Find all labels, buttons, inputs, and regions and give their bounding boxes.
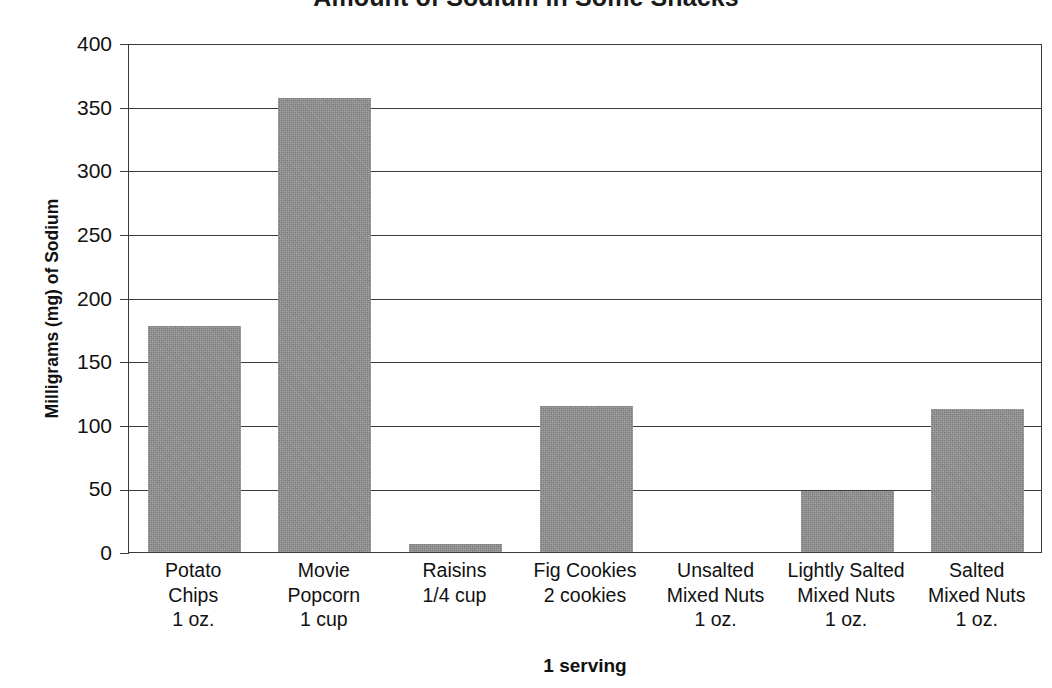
gridline (129, 299, 1041, 300)
x-axis-tick-label: PotatoChips1 oz. (128, 558, 259, 632)
y-axis-tick-mark (120, 490, 129, 491)
bar (540, 406, 633, 552)
x-axis-tick-label-line: Mixed Nuts (781, 583, 912, 608)
y-axis-tick-labels: 050100150200250300350400 (0, 44, 118, 553)
y-axis-tick-mark (120, 108, 129, 109)
bar (148, 326, 241, 553)
x-axis-tick-label-line: Unsalted (650, 558, 781, 583)
x-axis-tick-label-line: Potato (128, 558, 259, 583)
x-axis-tick-label: Raisins1/4 cup (389, 558, 520, 607)
y-axis-tick-mark (120, 553, 129, 554)
x-axis-tick-label-line: Mixed Nuts (911, 583, 1042, 608)
bar (409, 544, 502, 552)
y-axis-tick-label: 300 (77, 159, 112, 183)
x-axis-tick-label: MoviePopcorn1 cup (259, 558, 390, 632)
y-axis-tick-label: 400 (77, 32, 112, 56)
y-axis-tick-label: 100 (77, 414, 112, 438)
x-axis-tick-label: Lightly SaltedMixed Nuts1 oz. (781, 558, 912, 632)
y-axis-tick-label: 50 (89, 477, 112, 501)
y-axis-tick-label: 350 (77, 96, 112, 120)
gridline (129, 235, 1041, 236)
y-axis-tick-label: 200 (77, 287, 112, 311)
x-axis-tick-label-line: Fig Cookies (520, 558, 651, 583)
y-axis-tick-label: 250 (77, 223, 112, 247)
chart-page: Amount of Sodium in Some Snacks Milligra… (0, 0, 1052, 688)
gridline (129, 108, 1041, 109)
x-axis-tick-label-line: Popcorn (259, 583, 390, 608)
x-axis-tick-label-line: 1 cup (259, 607, 390, 632)
y-axis-tick-mark (120, 299, 129, 300)
x-axis-tick-label-line: Salted (911, 558, 1042, 583)
y-axis-tick-mark (120, 44, 129, 45)
bar (931, 409, 1024, 552)
y-axis-tick-label: 0 (100, 541, 112, 565)
x-axis-tick-label: Fig Cookies2 cookies (520, 558, 651, 607)
x-axis-title: 1 serving (128, 655, 1042, 677)
x-axis-tick-labels: PotatoChips1 oz.MoviePopcorn1 cupRaisins… (128, 558, 1042, 636)
x-axis-tick-label-line: Chips (128, 583, 259, 608)
x-axis-tick-label: UnsaltedMixed Nuts1 oz. (650, 558, 781, 632)
x-axis-tick-label-line: 1 oz. (650, 607, 781, 632)
y-axis-tick-mark (120, 426, 129, 427)
x-axis-tick-label-line: Raisins (389, 558, 520, 583)
plot-area (128, 44, 1042, 553)
chart-title: Amount of Sodium in Some Snacks (0, 0, 1052, 12)
x-axis-tick-label-line: 1 oz. (128, 607, 259, 632)
y-axis-tick-label: 150 (77, 350, 112, 374)
x-axis-tick-label-line: Lightly Salted (781, 558, 912, 583)
gridline (129, 362, 1041, 363)
y-axis-tick-mark (120, 171, 129, 172)
x-axis-tick-label: SaltedMixed Nuts1 oz. (911, 558, 1042, 632)
bar (278, 98, 371, 552)
gridline (129, 171, 1041, 172)
x-axis-tick-label-line: 1 oz. (781, 607, 912, 632)
x-axis-tick-label-line: 2 cookies (520, 583, 651, 608)
y-axis-tick-mark (120, 362, 129, 363)
x-axis-tick-label-line: 1 oz. (911, 607, 1042, 632)
x-axis-tick-label-line: Movie (259, 558, 390, 583)
bar (801, 491, 894, 552)
x-axis-tick-label-line: 1/4 cup (389, 583, 520, 608)
y-axis-tick-mark (120, 235, 129, 236)
x-axis-tick-label-line: Mixed Nuts (650, 583, 781, 608)
